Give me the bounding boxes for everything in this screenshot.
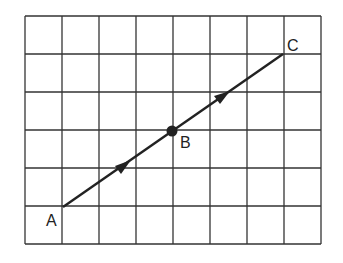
arrow-icon-ab bbox=[115, 160, 131, 174]
label-b: B bbox=[180, 134, 191, 151]
arrow-icon-bc bbox=[214, 91, 230, 104]
vector-grid-diagram: A B C bbox=[0, 0, 343, 263]
label-c: C bbox=[287, 37, 299, 54]
point-b-dot bbox=[167, 126, 178, 137]
label-a: A bbox=[46, 212, 57, 229]
